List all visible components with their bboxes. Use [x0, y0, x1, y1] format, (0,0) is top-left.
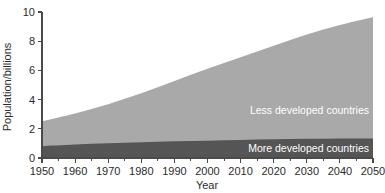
y-tick-label-8: 8 — [29, 35, 35, 47]
x-tick-label-1970: 1970 — [96, 165, 120, 177]
x-tick-label-2010: 2010 — [228, 165, 252, 177]
x-tick-label-2000: 2000 — [195, 165, 219, 177]
y-tick-label-6: 6 — [29, 64, 35, 76]
x-tick-label-2050: 2050 — [361, 165, 385, 177]
x-tick-label-1950: 1950 — [30, 165, 54, 177]
y-axis-title: Population/billions — [1, 42, 13, 131]
population-chart-figure: 0246810 19501960197019801990200020102020… — [0, 0, 385, 193]
x-tick-label-2040: 2040 — [328, 165, 352, 177]
y-axis-ticks — [38, 12, 42, 158]
plot-area — [42, 17, 373, 158]
x-axis-ticks — [42, 158, 373, 163]
x-axis-title: Year — [196, 179, 219, 191]
more-developed-label: More developed countries — [248, 142, 369, 154]
y-tick-label-2: 2 — [29, 123, 35, 135]
x-tick-label-2030: 2030 — [295, 165, 319, 177]
less-developed-label: Less developed countries — [250, 104, 369, 116]
x-tick-label-1960: 1960 — [63, 165, 87, 177]
x-tick-label-2020: 2020 — [261, 165, 285, 177]
y-axis-tick-labels: 0246810 — [23, 6, 35, 164]
x-axis-tick-labels: 1950196019701980199020002010202020302040… — [30, 165, 385, 177]
x-tick-label-1980: 1980 — [129, 165, 153, 177]
y-tick-label-10: 10 — [23, 6, 35, 18]
y-tick-label-0: 0 — [29, 152, 35, 164]
area-less-developed-countries — [42, 17, 373, 158]
population-area-chart: 0246810 19501960197019801990200020102020… — [0, 0, 385, 193]
y-tick-label-4: 4 — [29, 94, 35, 106]
x-tick-label-1990: 1990 — [162, 165, 186, 177]
